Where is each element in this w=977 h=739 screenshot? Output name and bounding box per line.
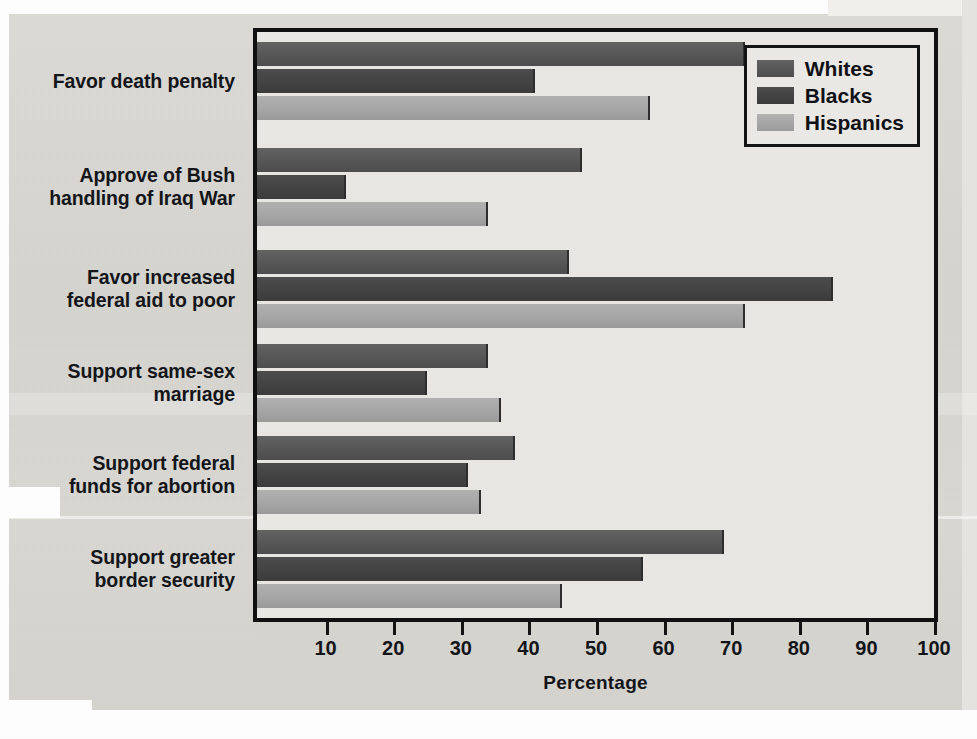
bar-whites <box>257 148 582 172</box>
bar-whites <box>257 344 488 368</box>
bar-whites <box>257 436 515 460</box>
chart-page: Favor death penaltyApprove of Bushhandli… <box>0 0 977 739</box>
x-axis-tick-label: 10 <box>296 637 356 660</box>
x-axis-tick-label: 50 <box>566 637 626 660</box>
bar-hispanics <box>257 490 481 514</box>
category-label: Support greaterborder security <box>5 546 235 592</box>
bar-blacks <box>257 69 535 93</box>
bar-blacks <box>257 463 468 487</box>
bar-hispanics <box>257 96 650 120</box>
x-axis-tick <box>799 622 802 635</box>
category-label-line: Support federal <box>5 452 235 475</box>
x-axis-tick <box>528 622 531 635</box>
category-label-line: funds for abortion <box>5 475 235 498</box>
category-label-line: marriage <box>5 383 235 406</box>
x-axis-tick-label: 30 <box>431 637 491 660</box>
bar-whites <box>257 250 569 274</box>
legend-swatch-blacks <box>757 87 794 104</box>
bar-hispanics <box>257 304 745 328</box>
x-axis-tick <box>326 622 329 635</box>
legend-item-whites: Whites <box>757 55 904 82</box>
legend-swatch-whites <box>757 60 794 77</box>
bar-blacks <box>257 371 427 395</box>
category-label: Support federalfunds for abortion <box>5 452 235 498</box>
category-label-line: border security <box>5 569 235 592</box>
category-label-line: Support greater <box>5 546 235 569</box>
bar-group <box>257 436 934 514</box>
legend-swatch-hispanics <box>757 114 794 131</box>
category-label-line: Approve of Bush <box>5 164 235 187</box>
bar-group <box>257 530 934 608</box>
chart-legend: Whites Blacks Hispanics <box>744 45 920 147</box>
bar-whites <box>257 42 745 66</box>
legend-label-hispanics: Hispanics <box>805 112 904 133</box>
x-axis-tick <box>461 622 464 635</box>
legend-item-blacks: Blacks <box>757 82 904 109</box>
category-label: Approve of Bushhandling of Iraq War <box>5 164 235 210</box>
x-axis-tick-label: 20 <box>363 637 423 660</box>
x-axis-title: Percentage <box>253 672 938 694</box>
legend-item-hispanics: Hispanics <box>757 109 904 136</box>
bar-hispanics <box>257 584 562 608</box>
category-label-line: Support same-sex <box>5 360 235 383</box>
plot-area: Whites Blacks Hispanics <box>253 28 938 622</box>
x-axis-tick-label: 70 <box>701 637 761 660</box>
category-label: Favor increasedfederal aid to poor <box>5 266 235 312</box>
x-axis-tick-label: 80 <box>769 637 829 660</box>
x-axis-tick <box>731 622 734 635</box>
legend-label-blacks: Blacks <box>805 85 873 106</box>
bar-blacks <box>257 557 643 581</box>
category-label-line: Favor death penalty <box>5 70 235 93</box>
legend-label-whites: Whites <box>805 58 874 79</box>
category-label-line: federal aid to poor <box>5 289 235 312</box>
x-axis-tick-label: 100 <box>904 637 964 660</box>
bar-blacks <box>257 277 833 301</box>
x-axis-tick <box>664 622 667 635</box>
x-axis-tick <box>934 622 937 635</box>
bar-whites <box>257 530 724 554</box>
bar-hispanics <box>257 398 501 422</box>
category-label-line: Favor increased <box>5 266 235 289</box>
category-label-line: handling of Iraq War <box>5 187 235 210</box>
bar-hispanics <box>257 202 488 226</box>
x-axis-tick <box>393 622 396 635</box>
x-axis-tick <box>596 622 599 635</box>
x-axis-tick <box>866 622 869 635</box>
x-axis-tick-label: 60 <box>634 637 694 660</box>
x-axis-tick-label: 40 <box>498 637 558 660</box>
x-axis-tick-label: 90 <box>836 637 896 660</box>
category-label: Favor death penalty <box>5 70 235 93</box>
bar-group <box>257 250 934 328</box>
bar-blacks <box>257 175 346 199</box>
bar-group <box>257 344 934 422</box>
bar-group <box>257 148 934 226</box>
category-label: Support same-sexmarriage <box>5 360 235 406</box>
